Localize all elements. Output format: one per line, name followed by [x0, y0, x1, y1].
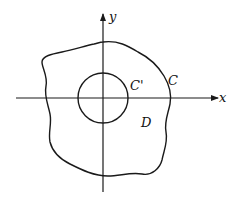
- y-axis-label: y: [108, 9, 117, 24]
- diagram-canvas: y x C' C D: [0, 0, 236, 202]
- outer-curve-c: [42, 42, 171, 176]
- inner-curve-label: C': [130, 78, 144, 93]
- outer-curve-label: C: [168, 73, 178, 88]
- x-axis-label: x: [219, 90, 227, 105]
- region-label: D: [140, 115, 152, 130]
